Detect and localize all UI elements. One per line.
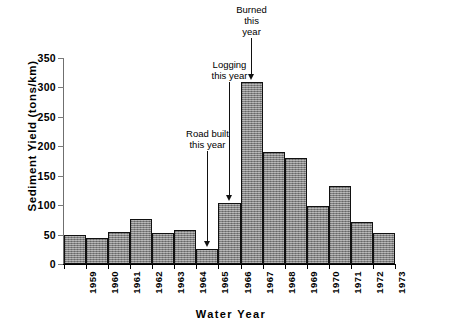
x-tick-label-1961: 1961 [131, 271, 142, 311]
bar-1963 [152, 233, 174, 264]
x-tick-mark [263, 264, 264, 269]
annotation-logging-label: Logging this year [199, 59, 261, 81]
bar-1964 [174, 230, 196, 264]
bar-1967 [241, 82, 263, 264]
x-axis-line [63, 264, 395, 265]
annotation-burned-line2: this [224, 15, 280, 26]
x-tick-label-1967: 1967 [264, 271, 275, 311]
x-tick-label-1963: 1963 [175, 271, 186, 311]
x-tick-label-1959: 1959 [87, 271, 98, 311]
x-tick-label-1971: 1971 [352, 271, 363, 311]
x-tick-mark [86, 264, 87, 269]
chart-figure: Sediment Yield (tons/km) 050100150200250… [0, 0, 462, 331]
x-tick-label-1972: 1972 [374, 271, 385, 311]
bar-1960 [86, 238, 108, 264]
x-tick-label-1964: 1964 [197, 271, 208, 311]
x-tick-mark [351, 264, 352, 269]
x-tick-label-1960: 1960 [109, 271, 120, 311]
annotation-burned-line1: Burned [224, 4, 280, 15]
y-tick-label: 50 [23, 229, 56, 241]
y-tick-label: 350 [23, 52, 56, 64]
x-tick-mark [307, 264, 308, 269]
x-tick-label-1966: 1966 [242, 271, 253, 311]
bar-1970 [307, 206, 329, 264]
bar-1971 [329, 186, 351, 264]
bar-1966 [218, 203, 240, 264]
x-tick-mark [329, 264, 330, 269]
y-tick-label: 0 [23, 258, 56, 270]
annotation-logging-line1: Logging [199, 59, 261, 70]
bar-1968 [263, 152, 285, 264]
y-tick-label: 100 [23, 199, 56, 211]
x-tick-mark [241, 264, 242, 269]
annotation-road-leader [207, 151, 208, 242]
x-tick-mark [285, 264, 286, 269]
x-tick-mark [218, 264, 219, 269]
x-tick-label-1969: 1969 [308, 271, 319, 311]
x-tick-label-1965: 1965 [219, 271, 230, 311]
bar-1973 [373, 233, 395, 264]
annotation-road-line1: Road built [176, 128, 238, 139]
x-tick-label-1962: 1962 [153, 271, 164, 311]
y-tick-label: 300 [23, 81, 56, 93]
bar-1969 [285, 158, 307, 264]
annotation-road-arrowhead-icon [204, 241, 210, 247]
bar-1972 [351, 222, 373, 264]
annotation-burned-label: Burned this year [224, 4, 280, 37]
x-tick-mark [196, 264, 197, 269]
y-tick-label: 250 [23, 111, 56, 123]
x-tick-mark [64, 264, 65, 269]
x-tick-mark [152, 264, 153, 269]
bar-1961 [108, 232, 130, 264]
x-tick-mark [373, 264, 374, 269]
annotation-road-label: Road built this year [176, 128, 238, 150]
bar-1959 [64, 235, 86, 264]
x-tick-label-1973: 1973 [396, 271, 407, 311]
x-tick-label-1970: 1970 [330, 271, 341, 311]
y-tick-label: 150 [23, 170, 56, 182]
annotation-road-line2: this year [176, 139, 238, 150]
annotation-logging-line2: this year [199, 70, 261, 81]
x-tick-mark [130, 264, 131, 269]
x-tick-mark [174, 264, 175, 269]
bar-1965 [196, 249, 218, 264]
annotation-burned-line3: year [224, 26, 280, 37]
y-tick-label: 200 [23, 140, 56, 152]
x-axis-title: Water Year [0, 308, 462, 320]
bar-1962 [130, 219, 152, 264]
annotation-logging-arrowhead-icon [226, 195, 232, 201]
x-tick-mark [108, 264, 109, 269]
x-tick-mark [395, 264, 396, 269]
x-tick-label-1968: 1968 [286, 271, 297, 311]
